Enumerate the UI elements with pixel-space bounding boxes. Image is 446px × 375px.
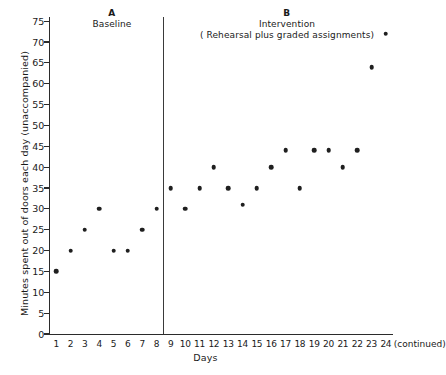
y-tick-mark	[44, 83, 50, 84]
x-tick-label: 17	[280, 340, 291, 349]
x-tick-label: 15	[251, 340, 262, 349]
data-point	[169, 186, 174, 191]
y-tick-mark	[44, 167, 50, 168]
data-point	[355, 148, 360, 153]
x-tick-label: 20	[323, 340, 334, 349]
y-tick-mark	[44, 125, 50, 126]
x-tick-label: 9	[168, 340, 173, 349]
x-tick-label: 18	[294, 340, 305, 349]
x-tick-label: 8	[154, 340, 159, 349]
x-tick-label: 4	[96, 340, 101, 349]
data-point	[226, 186, 231, 191]
x-tick-label: 6	[125, 340, 130, 349]
x-tick-label: 1	[53, 340, 58, 349]
x-tick-label: 3	[82, 340, 87, 349]
data-point	[83, 227, 88, 232]
y-axis-title: Minutes spent out of doors each day (una…	[19, 34, 30, 334]
y-tick-mark	[44, 250, 50, 251]
data-point	[369, 65, 374, 70]
x-tick-label: 5	[111, 340, 116, 349]
x-tick-label: 2	[68, 340, 73, 349]
data-point	[140, 227, 145, 232]
data-point	[326, 148, 331, 153]
y-tick-label: 75	[26, 17, 44, 26]
data-point	[154, 207, 159, 212]
data-point	[97, 207, 102, 212]
data-point	[240, 202, 245, 207]
y-tick-mark	[44, 21, 50, 22]
phase-header-b: B Intervention ( Rehearsal plus graded a…	[163, 8, 411, 41]
x-tick-label: 24	[380, 340, 391, 349]
phase-divider-line	[163, 17, 164, 334]
x-tick-label: 14	[237, 340, 248, 349]
y-tick-mark	[44, 229, 50, 230]
data-point	[212, 165, 217, 170]
phase-b-letter: B	[163, 8, 411, 19]
x-tick-label: 10	[180, 340, 191, 349]
y-tick-mark	[44, 146, 50, 147]
x-tick-label: 13	[223, 340, 234, 349]
data-point	[341, 165, 346, 170]
data-point	[183, 207, 188, 212]
x-tick-label: 7	[139, 340, 144, 349]
y-tick-mark	[44, 187, 50, 188]
data-point	[54, 269, 59, 274]
x-axis-title: Days	[0, 352, 411, 363]
y-tick-mark	[44, 313, 50, 314]
data-point	[298, 186, 303, 191]
phase-b-sublabel: ( Rehearsal plus graded assignments)	[163, 30, 411, 41]
data-point	[384, 31, 389, 36]
x-tick-label: 19	[309, 340, 320, 349]
y-tick-mark	[44, 271, 50, 272]
y-tick-mark	[44, 62, 50, 63]
figure-caption-fragment	[2, 367, 322, 375]
data-point	[126, 248, 131, 253]
y-tick-mark	[44, 104, 50, 105]
data-point	[283, 148, 288, 153]
data-point	[68, 248, 73, 253]
y-tick-mark	[44, 208, 50, 209]
y-axis-line	[49, 17, 50, 335]
y-tick-mark	[44, 292, 50, 293]
y-tick-label-wrap: 75	[0, 17, 44, 26]
phase-a-name: Baseline	[62, 19, 162, 30]
data-point	[255, 186, 260, 191]
data-point	[269, 165, 274, 170]
x-tick-label: 22	[352, 340, 363, 349]
x-axis-continued-label: (continued)	[394, 340, 446, 349]
phase-header-a: A Baseline	[62, 8, 162, 30]
data-point	[111, 248, 116, 253]
x-tick-label: 16	[266, 340, 277, 349]
x-tick-label: 21	[337, 340, 348, 349]
x-tick-label: 11	[194, 340, 205, 349]
y-tick-mark	[44, 333, 50, 334]
data-point	[312, 148, 317, 153]
phase-a-letter: A	[62, 8, 162, 19]
x-axis-line	[49, 334, 393, 335]
phase-b-name: Intervention	[163, 19, 411, 30]
x-tick-label: 12	[208, 340, 219, 349]
x-tick-label: 23	[366, 340, 377, 349]
data-point	[197, 186, 202, 191]
y-tick-mark	[44, 41, 50, 42]
